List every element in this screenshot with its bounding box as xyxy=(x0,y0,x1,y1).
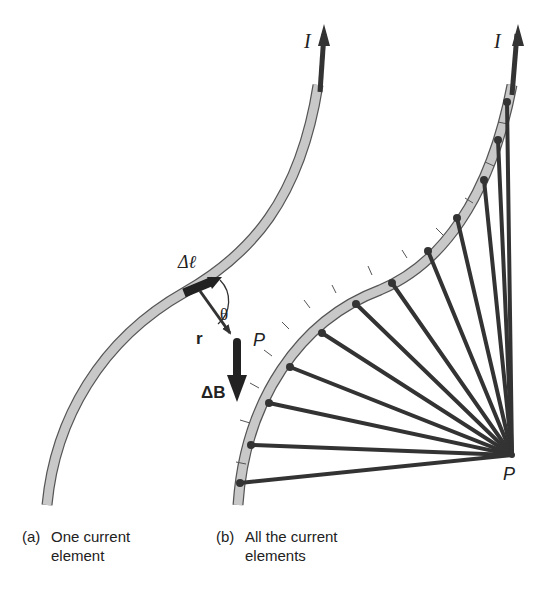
caption-a-line2: element xyxy=(22,546,130,565)
wire-b-fill xyxy=(238,85,512,505)
current-element xyxy=(184,281,213,293)
panel-b xyxy=(236,24,524,505)
caption-b-line1: All the current xyxy=(245,528,338,545)
wire-a-fill xyxy=(47,85,318,505)
delta-b-arrowhead xyxy=(227,375,247,402)
theta-label: θ xyxy=(220,305,228,325)
caption-a: (a)One current element xyxy=(22,527,130,565)
current-label-a: I xyxy=(304,30,311,53)
caption-b-line2: elements xyxy=(216,546,338,565)
current-arrowhead-b xyxy=(512,24,524,46)
delta-b-label: ΔB xyxy=(201,383,226,403)
current-label-b: I xyxy=(494,30,501,53)
delta-l-label: Δℓ xyxy=(178,252,196,273)
caption-b-tag: (b) xyxy=(216,527,245,546)
biot-savart-diagram xyxy=(0,0,555,597)
point-p-label-b: P xyxy=(503,464,515,485)
caption-a-line1: One current xyxy=(51,528,130,545)
caption-b: (b)All the current elements xyxy=(216,527,338,565)
current-arrowhead-a xyxy=(318,24,330,46)
r-label: r xyxy=(196,329,203,349)
point-p-label-a: P xyxy=(253,330,265,351)
caption-a-tag: (a) xyxy=(22,527,51,546)
